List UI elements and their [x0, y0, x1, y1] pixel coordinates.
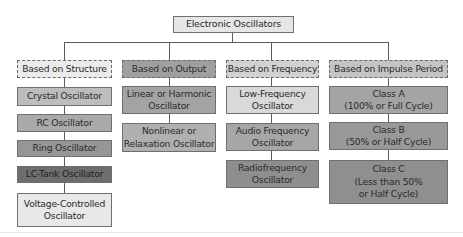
node-label-line2: Oscillator — [252, 100, 293, 113]
node-nonlinear-relaxation-oscillator: Nonlinear or Relaxation Oscillator — [122, 123, 216, 152]
node-voltage-controlled-oscillator: Voltage-Controlled Oscillator — [17, 193, 112, 227]
bottom-divider — [0, 232, 463, 233]
node-label-line2: Oscillator — [252, 137, 293, 150]
category-based-on-structure: Based on Structure — [17, 60, 112, 78]
category-label: Based on Output — [132, 63, 206, 76]
node-radiofrequency-oscillator: Radiofrequency Oscillator — [226, 160, 319, 188]
node-label-line1: Nonlinear or — [142, 125, 196, 138]
node-label-line1: Linear or Harmonic — [127, 88, 211, 101]
connector-col3-drop — [271, 42, 272, 60]
node-label: Crystal Oscillator — [27, 90, 102, 103]
node-label-line1: Radiofrequency — [238, 162, 307, 175]
node-label-line2: Oscillator — [252, 174, 293, 187]
node-audio-frequency-oscillator: Audio Frequency Oscillator — [226, 123, 319, 151]
root-label: Electronic Oscillators — [186, 18, 281, 31]
node-label: Ring Oscillator — [33, 142, 97, 155]
node-label-line2: (100% or Full Cycle) — [344, 100, 432, 113]
node-label: RC Oscillator — [36, 117, 92, 130]
node-class-c: Class C (Less than 50% or Half Cycle) — [329, 160, 448, 204]
node-class-a: Class A (100% or Full Cycle) — [329, 86, 448, 114]
node-class-b: Class B (50% or Half Cycle) — [329, 122, 448, 150]
connector-col4-drop — [388, 42, 389, 60]
node-label-line1: Class B — [373, 124, 405, 137]
category-based-on-frequency: Based on Frequency — [226, 60, 319, 78]
node-label-line1: Audio Frequency — [236, 125, 310, 138]
connector-col1-drop — [64, 42, 65, 60]
root-node-electronic-oscillators: Electronic Oscillators — [173, 16, 294, 33]
node-rc-oscillator: RC Oscillator — [17, 114, 112, 132]
node-linear-harmonic-oscillator: Linear or Harmonic Oscillator — [122, 86, 216, 114]
node-label-line2: (Less than 50% — [354, 176, 422, 189]
category-based-on-impulse-period: Based on Impulse Period — [329, 60, 448, 78]
category-based-on-output: Based on Output — [122, 60, 216, 78]
node-crystal-oscillator: Crystal Oscillator — [17, 87, 112, 106]
node-label-line1: Class C — [372, 163, 404, 176]
connector-horizontal-bus — [64, 42, 389, 43]
category-label: Based on Impulse Period — [334, 63, 443, 76]
category-label: Based on Frequency — [228, 63, 317, 76]
node-label-line2: Oscillator — [148, 100, 189, 113]
node-low-frequency-oscillator: Low-Frequency Oscillator — [226, 86, 319, 114]
node-label: LC-Tank Oscillator — [26, 168, 104, 181]
node-label-line2: Oscillator — [44, 210, 85, 223]
node-label-line1: Class A — [373, 88, 405, 101]
node-ring-oscillator: Ring Oscillator — [17, 140, 112, 157]
node-label-line1: Voltage-Controlled — [24, 198, 105, 211]
node-label-line2: Relaxation Oscillator — [124, 138, 215, 151]
node-lc-tank-oscillator: LC-Tank Oscillator — [17, 166, 112, 183]
node-label-line3: or Half Cycle) — [359, 188, 418, 201]
node-label-line2: (50% or Half Cycle) — [346, 136, 431, 149]
connector-col2-drop — [169, 42, 170, 60]
category-label: Based on Structure — [22, 63, 107, 76]
node-label-line1: Low-Frequency — [239, 88, 305, 101]
